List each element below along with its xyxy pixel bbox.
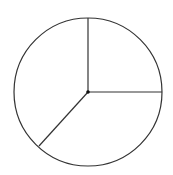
- center-dot: [86, 90, 90, 94]
- pie-chart: [0, 0, 173, 175]
- slice-dividers: [39, 18, 162, 146]
- slice-divider-2: [39, 92, 88, 146]
